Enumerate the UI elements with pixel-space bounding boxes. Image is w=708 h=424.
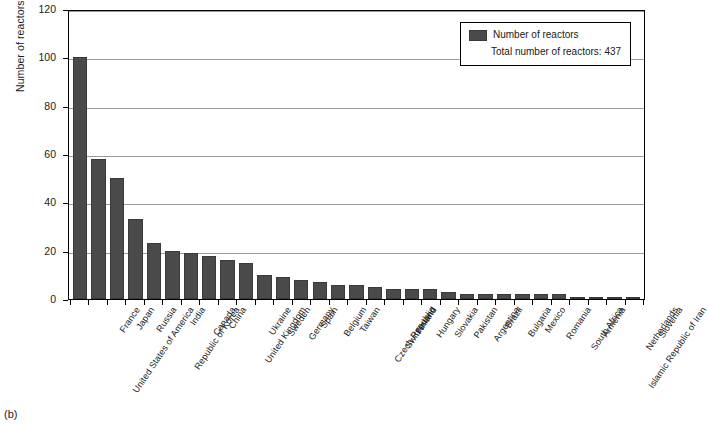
bar-slot	[292, 11, 310, 299]
bar	[73, 57, 87, 299]
chart-legend: Number of reactors Total number of react…	[460, 22, 631, 66]
bar-slot	[89, 11, 107, 299]
bar	[220, 260, 234, 299]
bar	[91, 159, 105, 299]
legend-series-label: Number of reactors	[493, 28, 579, 42]
bar	[110, 178, 124, 299]
bar	[147, 243, 161, 299]
bar-slot	[255, 11, 273, 299]
x-tick-label: Romania	[565, 305, 594, 341]
y-axis-ticks: 020406080100120	[0, 0, 68, 290]
y-tick-label: 20	[44, 245, 56, 258]
y-tick-label: 40	[44, 196, 56, 209]
bar	[294, 280, 308, 299]
bar	[349, 285, 363, 300]
panel-caption: (b)	[4, 408, 17, 420]
y-tick-label: 100	[38, 51, 56, 64]
bar	[184, 253, 198, 299]
bar	[331, 285, 345, 300]
bar	[589, 297, 603, 299]
x-axis-labels: United States of AmericaFranceJapanRussi…	[68, 305, 645, 415]
bar-slot	[145, 11, 163, 299]
y-tick-label: 60	[44, 148, 56, 161]
legend-total-label: Total number of reactors: 437	[491, 45, 621, 59]
bar	[165, 251, 179, 299]
bar-slot	[310, 11, 328, 299]
bar-slot	[329, 11, 347, 299]
bar	[405, 289, 419, 299]
bar	[478, 294, 492, 299]
bar	[368, 287, 382, 299]
bar-slot	[182, 11, 200, 299]
bar	[607, 297, 621, 299]
bar	[552, 294, 566, 299]
bar	[202, 256, 216, 300]
bar-slot	[421, 11, 439, 299]
bar-slot	[126, 11, 144, 299]
bar	[460, 294, 474, 299]
bar-slot	[108, 11, 126, 299]
bar-slot	[200, 11, 218, 299]
bar	[497, 294, 511, 299]
y-tick-label: 120	[38, 3, 56, 16]
bar	[534, 294, 548, 299]
bar-slot	[237, 11, 255, 299]
bar-slot	[403, 11, 421, 299]
bar-slot	[274, 11, 292, 299]
bar	[423, 289, 437, 299]
bar	[570, 297, 584, 299]
y-tick-label: 80	[44, 100, 56, 113]
bar	[276, 277, 290, 299]
bar-slot	[347, 11, 365, 299]
x-tick-label: Spain	[318, 305, 339, 330]
bar	[313, 282, 327, 299]
bar	[386, 289, 400, 299]
bar-slot	[163, 11, 181, 299]
bar-slot	[71, 11, 89, 299]
bar	[128, 219, 142, 299]
legend-swatch-icon	[469, 30, 487, 41]
bar-slot	[218, 11, 236, 299]
legend-entry-total: Total number of reactors: 437	[469, 45, 621, 59]
legend-entry-series: Number of reactors	[469, 28, 621, 42]
bar-slot	[439, 11, 457, 299]
bar	[515, 294, 529, 299]
bar-slot	[366, 11, 384, 299]
bar	[239, 263, 253, 299]
bar-slot	[384, 11, 402, 299]
bar	[257, 275, 271, 299]
bar	[626, 297, 640, 299]
y-tick-label: 0	[50, 293, 56, 306]
x-tick-label: Brazil	[503, 305, 524, 330]
bar	[441, 292, 455, 299]
